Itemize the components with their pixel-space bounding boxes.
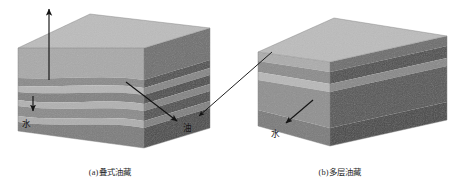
panel-a — [18, 14, 210, 148]
water-label-b: 水 — [271, 128, 280, 139]
reservoir-figure: 水 油 水 (a)叠式油藏 (b)多层油藏 — [0, 0, 463, 190]
water-label-a: 水 — [22, 118, 31, 129]
oil-label-a: 油 — [183, 122, 192, 133]
figure-canvas: 水 油 水 (a)叠式油藏 (b)多层油藏 — [0, 0, 463, 190]
caption-panel-a: (a)叠式油藏 — [89, 167, 132, 177]
panel-a-front-face — [18, 48, 144, 148]
layer-front-caprock — [18, 48, 144, 80]
caption-panel-b: (b)多层油藏 — [318, 167, 362, 177]
panel-a-side-face — [144, 28, 210, 148]
